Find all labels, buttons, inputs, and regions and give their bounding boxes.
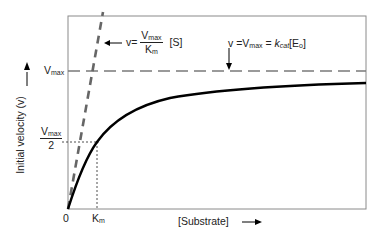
x-axis-label: [Substrate] bbox=[178, 216, 229, 227]
half-vmax-tick-label: Vmax 2 bbox=[40, 126, 62, 151]
eq1-fraction: Vmax Km bbox=[140, 30, 162, 55]
km-sub: m bbox=[99, 217, 105, 224]
eq2-arrow-icon bbox=[226, 63, 232, 70]
half-sub: max bbox=[48, 130, 61, 137]
eq1-arrow-icon bbox=[104, 40, 110, 46]
eq2-v: v =V bbox=[228, 37, 249, 49]
eq2-ksub: cat bbox=[280, 42, 289, 49]
vmax-sub: max bbox=[51, 69, 64, 76]
eq1-num: Vmax bbox=[140, 30, 162, 43]
half-vmax-fraction: Vmax 2 bbox=[40, 126, 62, 151]
y-axis-label: Initial velocity (v) bbox=[14, 96, 26, 174]
half-den: 2 bbox=[40, 139, 62, 151]
initial-rate-line bbox=[68, 12, 103, 209]
eq1-den-K: K bbox=[145, 43, 152, 55]
km-K: K bbox=[92, 212, 99, 224]
eq2-eq: = bbox=[263, 37, 275, 49]
michaelis-menten-curve bbox=[68, 83, 366, 209]
plot-frame bbox=[68, 16, 366, 209]
eq1-S: [S] bbox=[169, 36, 182, 48]
vmax-V: V bbox=[44, 64, 51, 76]
eq1-den: Km bbox=[140, 43, 162, 55]
origin-label: 0 bbox=[63, 213, 69, 224]
vmax-tick-label: Vmax bbox=[44, 65, 64, 76]
eq1-num-sub: max bbox=[148, 34, 161, 41]
x-axis-arrow-icon bbox=[255, 219, 262, 225]
y-axis-arrow-icon bbox=[24, 62, 30, 70]
eq1-v: v= bbox=[126, 36, 137, 48]
eq1-den-sub: m bbox=[152, 48, 158, 55]
eq2-close: ] bbox=[303, 37, 306, 49]
eq2-E: [E bbox=[289, 37, 299, 49]
initial-rate-equation: v= Vmax Km [S] bbox=[126, 30, 182, 55]
km-tick-label: Km bbox=[92, 213, 105, 224]
vmax-equation: v =Vmax = kcat[Eo] bbox=[228, 38, 306, 49]
eq2-vsub: max bbox=[249, 42, 262, 49]
half-V: V bbox=[41, 125, 48, 137]
chart-canvas bbox=[0, 0, 379, 236]
half-vmax-num: Vmax bbox=[40, 126, 62, 139]
